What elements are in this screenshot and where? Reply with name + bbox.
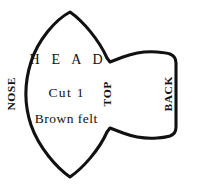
piece-name-label: H E A D (0, 53, 132, 67)
edge-label-nose: NOSE (7, 70, 18, 118)
pattern-canvas: H E A D Cut 1 Brown felt NOSE TOP BACK (0, 0, 198, 190)
edge-label-back: BACK (164, 70, 175, 118)
edge-label-top: TOP (103, 72, 114, 116)
